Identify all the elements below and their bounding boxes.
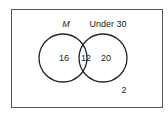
- under-30-only-count: 20: [101, 53, 111, 63]
- m-only-count: 16: [59, 53, 69, 63]
- venn-diagram: M Under 30 16 12 20 2: [0, 0, 168, 113]
- set-label-under-30: Under 30: [89, 19, 126, 29]
- outside-count: 2: [121, 85, 126, 95]
- set-label-m: M: [62, 19, 70, 29]
- intersection-count: 12: [81, 53, 91, 63]
